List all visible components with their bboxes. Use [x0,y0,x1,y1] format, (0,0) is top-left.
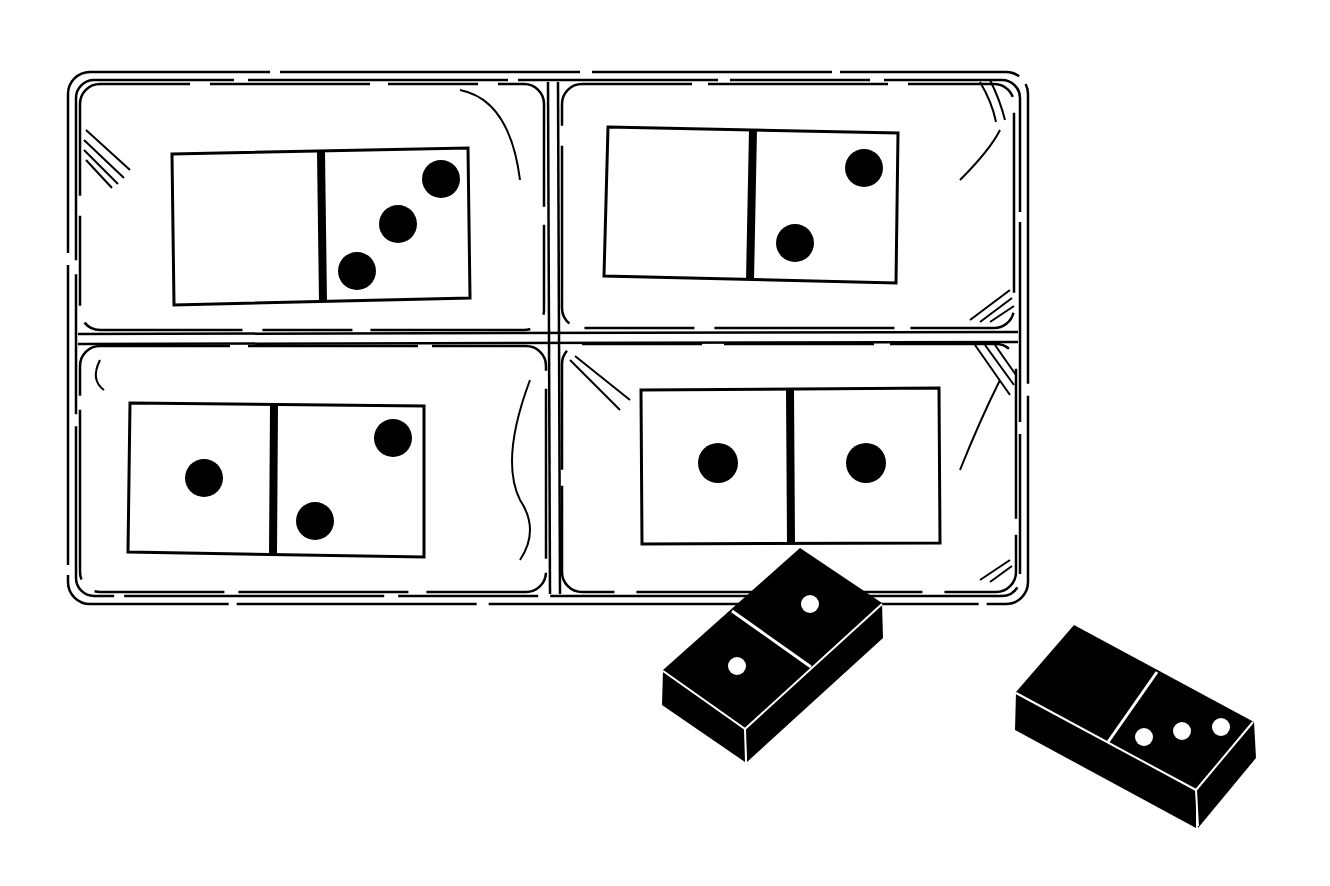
pip [374,419,412,457]
pip [846,443,886,483]
pip [296,502,334,540]
pip [776,224,814,262]
loose-domino-1-1 [662,548,883,762]
pip [1135,728,1153,746]
domino-illustration [0,0,1330,886]
domino-card-0-2 [604,127,898,283]
pip [185,459,223,497]
pip [1173,722,1191,740]
pip [845,149,883,187]
pip [422,160,460,198]
pip [1212,718,1230,736]
pip [379,205,417,243]
pip [801,595,819,613]
domino-card-1-1 [641,388,940,544]
pip [338,252,376,290]
domino-card-0-3 [172,148,470,305]
pip [728,657,746,675]
pip [698,443,738,483]
loose-domino-0-3 [1015,625,1256,828]
domino-card-1-2 [128,403,424,557]
